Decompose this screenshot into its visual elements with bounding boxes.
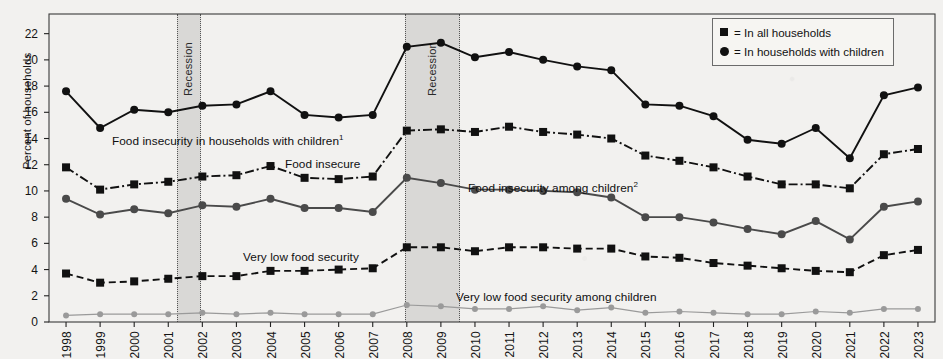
- data-point: [710, 218, 718, 226]
- data-point: [301, 111, 309, 119]
- data-point: [302, 311, 308, 317]
- data-point: [880, 251, 888, 259]
- data-point: [232, 100, 240, 108]
- series-label-3: Very low food security: [243, 250, 359, 264]
- data-point: [710, 259, 718, 267]
- data-point: [711, 310, 717, 316]
- data-point: [130, 277, 138, 285]
- legend-item-label: = In all households: [734, 26, 831, 39]
- data-point: [914, 197, 922, 205]
- data-point: [641, 213, 649, 221]
- data-point: [744, 173, 752, 181]
- data-point: [778, 264, 786, 272]
- data-point: [62, 270, 70, 278]
- data-point: [471, 128, 479, 136]
- data-point: [164, 108, 172, 116]
- data-point: [403, 127, 411, 135]
- data-point: [63, 312, 69, 318]
- data-point: [199, 310, 205, 316]
- data-point: [779, 311, 785, 317]
- data-point: [675, 254, 683, 262]
- data-point: [573, 62, 581, 70]
- data-point: [131, 311, 137, 317]
- data-point: [335, 204, 343, 212]
- data-point: [778, 140, 786, 148]
- data-point: [232, 272, 240, 280]
- data-point: [437, 39, 445, 47]
- data-point: [438, 303, 444, 309]
- data-point: [675, 157, 683, 165]
- data-point: [675, 213, 683, 221]
- legend-item-label: = In households with children: [734, 45, 884, 58]
- data-point: [914, 246, 922, 254]
- data-point: [471, 247, 479, 255]
- data-point: [130, 180, 138, 188]
- data-point: [880, 91, 888, 99]
- legend-item-1: = In households with children: [720, 43, 884, 59]
- data-point: [505, 123, 513, 131]
- series-label-2: Food insecurity among children2: [468, 180, 638, 195]
- data-point: [744, 262, 752, 270]
- data-point: [506, 306, 512, 312]
- chart-legend: = In all households= In households with …: [712, 18, 894, 66]
- data-point: [505, 243, 513, 251]
- data-point: [267, 87, 275, 95]
- data-point: [812, 267, 820, 275]
- data-point: [744, 136, 752, 144]
- data-point: [880, 203, 888, 211]
- data-point: [914, 145, 922, 153]
- circle-marker-icon: [720, 47, 729, 56]
- series-label-4: Very low food security among children: [456, 290, 657, 304]
- data-point: [812, 217, 820, 225]
- data-point: [62, 195, 70, 203]
- data-point: [847, 310, 853, 316]
- data-point: [641, 100, 649, 108]
- data-point: [846, 154, 854, 162]
- data-point: [336, 311, 342, 317]
- data-point: [130, 106, 138, 114]
- data-point: [62, 163, 70, 171]
- data-point: [403, 174, 411, 182]
- data-point: [403, 243, 411, 251]
- data-point: [505, 48, 513, 56]
- data-point: [914, 83, 922, 91]
- data-point: [675, 102, 683, 110]
- data-point: [268, 310, 274, 316]
- data-point: [641, 252, 649, 260]
- data-point: [539, 243, 547, 251]
- data-point: [198, 173, 206, 181]
- data-point: [846, 235, 854, 243]
- square-marker-icon: [720, 28, 728, 36]
- data-point: [96, 279, 104, 287]
- data-point: [232, 171, 240, 179]
- data-point: [267, 267, 275, 275]
- data-point: [573, 245, 581, 253]
- data-point: [437, 125, 445, 133]
- data-point: [812, 180, 820, 188]
- data-point: [846, 184, 854, 192]
- data-point: [846, 268, 854, 276]
- data-point: [778, 180, 786, 188]
- data-point: [607, 66, 615, 74]
- data-point: [539, 128, 547, 136]
- data-point: [642, 310, 648, 316]
- data-point: [369, 264, 377, 272]
- series-label-1: Food insecure: [285, 157, 360, 171]
- series-label-0: Food insecurity in households with child…: [112, 133, 344, 148]
- data-point: [608, 305, 614, 311]
- data-point: [472, 306, 478, 312]
- data-point: [607, 135, 615, 143]
- data-point: [301, 174, 309, 182]
- data-point: [164, 209, 172, 217]
- data-point: [369, 173, 377, 181]
- data-point: [164, 178, 172, 186]
- data-point: [641, 152, 649, 160]
- data-point: [96, 186, 104, 194]
- data-point: [370, 311, 376, 317]
- data-point: [915, 306, 921, 312]
- data-point: [165, 311, 171, 317]
- data-point: [62, 87, 70, 95]
- data-point: [880, 150, 888, 158]
- data-point: [745, 311, 751, 317]
- data-point: [130, 205, 138, 213]
